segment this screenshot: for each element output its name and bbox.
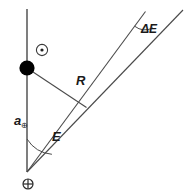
label-semimajor-axis-subscript: ⊕ <box>21 121 28 130</box>
label-delta-elongation: ΔE <box>141 23 157 35</box>
label-elongation-E: E <box>52 130 61 143</box>
label-distance-R: R <box>76 74 85 87</box>
diagram-vector-graphics <box>0 0 186 195</box>
angle-arc-E <box>27 139 52 154</box>
label-semimajor-axis: a⊕ <box>14 114 28 130</box>
sight-line-outer <box>27 10 183 172</box>
diagram-canvas: R E ΔE a⊕ <box>0 0 186 195</box>
sight-line-inner <box>27 12 146 173</box>
earth-icon <box>23 179 33 189</box>
planet-disk <box>19 60 34 75</box>
sun-icon <box>36 44 47 55</box>
